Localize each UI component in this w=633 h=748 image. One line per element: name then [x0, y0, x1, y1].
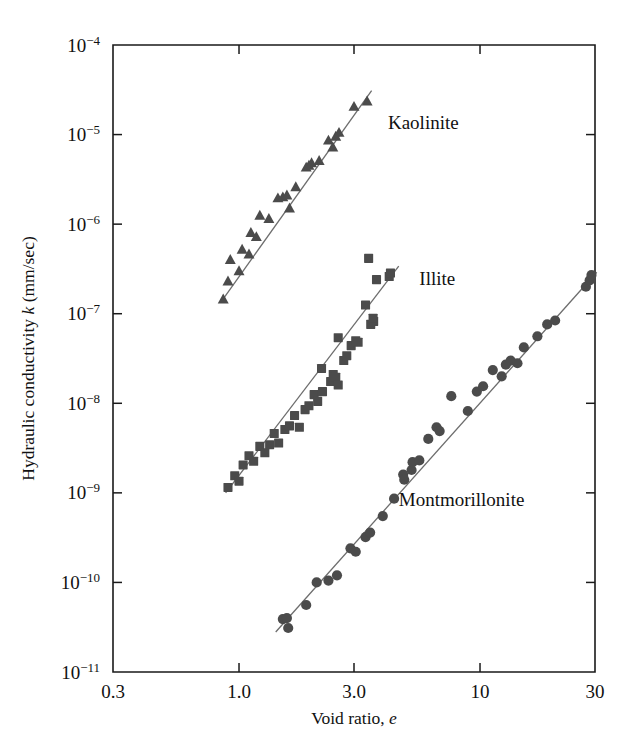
data-point: [586, 270, 596, 280]
y-axis-title: Hydraulic conductivity k (mm/sec): [18, 236, 38, 481]
data-point: [342, 351, 351, 360]
data-point: [369, 314, 378, 323]
data-point: [318, 387, 327, 396]
data-point: [372, 275, 381, 284]
data-point: [389, 494, 399, 504]
data-point: [463, 406, 473, 416]
data-point: [364, 254, 373, 263]
data-point: [512, 358, 522, 368]
hydraulic-conductivity-scatter-plot: 10−410−510−610−710−810−910−1010−110.31.0…: [0, 0, 633, 748]
data-point: [354, 338, 363, 347]
chart-figure: 10−410−510−610−710−810−910−1010−110.31.0…: [0, 0, 633, 748]
data-point: [295, 423, 304, 432]
data-point: [532, 331, 542, 341]
series-label-illite: Illite: [419, 268, 455, 289]
data-point: [423, 434, 433, 444]
data-point: [290, 411, 299, 420]
x-tick-label: 1.0: [227, 681, 251, 702]
data-point: [234, 477, 243, 486]
series-label-montmorillonite: Montmorillonite: [399, 489, 525, 510]
data-point: [265, 440, 274, 449]
data-point: [249, 457, 258, 466]
data-point: [334, 380, 343, 389]
data-point: [351, 547, 361, 557]
x-tick-label: 3.0: [342, 681, 366, 702]
data-point: [304, 401, 313, 410]
x-tick-label: 0.3: [101, 681, 125, 702]
data-point: [488, 365, 498, 375]
data-point: [260, 448, 269, 457]
data-point: [399, 475, 409, 485]
data-point: [550, 315, 560, 325]
data-point: [283, 623, 293, 633]
data-point: [323, 575, 333, 585]
data-point: [478, 381, 488, 391]
data-point: [274, 438, 283, 447]
data-point: [317, 364, 326, 373]
data-point: [386, 268, 395, 277]
data-point: [497, 371, 507, 381]
data-point: [239, 460, 248, 469]
series-label-kaolinite: Kaolinite: [388, 112, 459, 133]
x-tick-label: 30: [586, 681, 605, 702]
data-point: [361, 300, 370, 309]
data-point: [313, 397, 322, 406]
data-point: [378, 511, 388, 521]
data-point: [301, 600, 311, 610]
data-point: [446, 391, 456, 401]
x-axis-title: Void ratio, e: [311, 708, 397, 728]
data-point: [414, 455, 424, 465]
data-point: [282, 613, 292, 623]
x-tick-label: 10: [471, 681, 490, 702]
data-point: [365, 527, 375, 537]
data-point: [435, 426, 445, 436]
data-point: [223, 483, 232, 492]
data-point: [285, 421, 294, 430]
data-point: [332, 570, 342, 580]
data-point: [334, 333, 343, 342]
data-point: [519, 342, 529, 352]
data-point: [312, 577, 322, 587]
data-point: [270, 429, 279, 438]
